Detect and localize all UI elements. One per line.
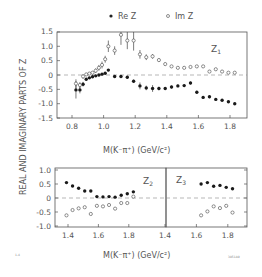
- im-z-point: [195, 65, 198, 68]
- y-tick-label: 1.0: [41, 42, 53, 51]
- im-z-point: [126, 201, 129, 204]
- im-z-point: [104, 58, 107, 61]
- re-z-point: [132, 80, 135, 83]
- im-z-point: [113, 49, 116, 52]
- re-z-point: [103, 72, 106, 75]
- panel-z1: 1.51.00.50-0.5-1.0-1.5 0.81.01.21.41.61.…: [38, 27, 247, 131]
- im-z-point: [151, 55, 154, 58]
- re-z-point: [157, 87, 160, 90]
- im-z-point: [157, 58, 160, 61]
- re-z-point: [233, 102, 236, 105]
- im-z-point: [227, 71, 230, 74]
- re-z-point: [206, 181, 209, 184]
- im-z-point: [100, 63, 103, 66]
- legend: Re Z Im Z: [109, 12, 193, 21]
- y-tick-label: -0.5: [38, 85, 53, 94]
- re-z-point: [81, 82, 84, 85]
- im-z-point: [120, 201, 123, 204]
- im-z-point: [164, 62, 167, 65]
- re-z-point: [126, 192, 129, 195]
- z2-frame: [55, 168, 166, 227]
- im-z-point: [107, 45, 110, 48]
- panel-z3: 1.41.61.8 Z3: [159, 168, 247, 240]
- x-tick-label: 1.2: [129, 122, 141, 131]
- im-z-point: [89, 212, 92, 215]
- re-z-point: [95, 195, 98, 198]
- re-z-point: [100, 72, 103, 75]
- im-z-point: [132, 39, 135, 42]
- x-tick-label: 1.4: [159, 231, 171, 240]
- x-tick-label: 1.8: [123, 231, 135, 240]
- re-z-point: [120, 194, 123, 197]
- y-tick-label: 1.0: [39, 166, 51, 175]
- re-z-point: [126, 76, 129, 79]
- im-z-point: [225, 204, 228, 207]
- re-z-point: [199, 182, 202, 185]
- im-z-point: [138, 53, 141, 56]
- x-tick-label: 1.4: [62, 231, 74, 240]
- z3-y-ticks: [244, 170, 247, 226]
- im-z-point: [145, 56, 148, 59]
- im-z-point: [218, 206, 221, 209]
- re-z-point: [113, 195, 116, 198]
- z3-panel-label: Z3: [176, 175, 186, 186]
- re-z-point: [132, 190, 135, 193]
- re-z-point: [65, 181, 68, 184]
- re-z-point: [189, 81, 192, 84]
- im-z-point: [200, 214, 203, 217]
- re-z-point: [88, 76, 91, 79]
- z2-x-ticks: 1.41.61.8: [62, 224, 135, 240]
- re-z-point: [227, 100, 230, 103]
- im-z-point: [206, 210, 209, 213]
- panel-z2: 1.00.50-0.5-1.0 1.41.61.8 Z2: [36, 166, 166, 241]
- z2-data-points: [65, 181, 135, 217]
- y-tick-label: 0.5: [41, 56, 53, 65]
- im-z-point: [233, 71, 236, 74]
- im-z-point: [212, 205, 215, 208]
- im-z-point: [95, 204, 98, 207]
- re-z-point: [85, 78, 88, 81]
- re-z-point: [231, 187, 234, 190]
- re-z-point: [220, 99, 223, 102]
- re-z-point: [138, 84, 141, 87]
- re-z-point: [89, 189, 92, 192]
- z3-x-ticks: 1.41.61.8: [159, 224, 234, 240]
- z1-data-points: [74, 32, 236, 105]
- footer-left-mark: 1-4: [15, 253, 20, 257]
- re-z-point: [107, 195, 110, 198]
- im-z-point: [183, 66, 186, 69]
- z1-panel-label: Z1: [211, 44, 221, 55]
- y-tick-label: 0: [48, 71, 53, 80]
- im-z-point: [107, 203, 110, 206]
- im-z-point: [74, 82, 77, 85]
- re-z-point: [78, 88, 81, 91]
- footer-right-mark: 3851A9: [228, 255, 240, 259]
- im-z-point: [221, 70, 224, 73]
- re-z-point: [113, 75, 116, 78]
- re-z-point: [97, 73, 100, 76]
- re-z-point: [208, 95, 211, 98]
- figure: Re Z Im Z REAL AND IMAGINARY PARTS OF Z …: [0, 0, 262, 277]
- re-z-point: [71, 184, 74, 187]
- y-tick-label: 1.5: [41, 27, 53, 36]
- im-z-point: [176, 66, 179, 69]
- im-z-point: [231, 211, 234, 214]
- im-z-point: [83, 206, 86, 209]
- x-tick-label: 1.8: [224, 122, 236, 131]
- z1-x-ticks: 0.81.01.21.41.61.8: [66, 115, 236, 131]
- im-z-point: [65, 214, 68, 217]
- im-z-point: [101, 205, 104, 208]
- re-z-point: [94, 74, 97, 77]
- im-z-point: [94, 69, 97, 72]
- re-z-point: [214, 98, 217, 101]
- x-tick-label: 1.4: [161, 122, 173, 131]
- im-z-point: [214, 68, 217, 71]
- im-z-point: [78, 83, 81, 86]
- re-z-point: [182, 84, 185, 87]
- im-z-point: [132, 195, 135, 198]
- re-z-point: [145, 86, 148, 89]
- re-z-point: [218, 184, 221, 187]
- im-z-point: [119, 33, 122, 36]
- re-z-point: [176, 84, 179, 87]
- re-z-point: [195, 91, 198, 94]
